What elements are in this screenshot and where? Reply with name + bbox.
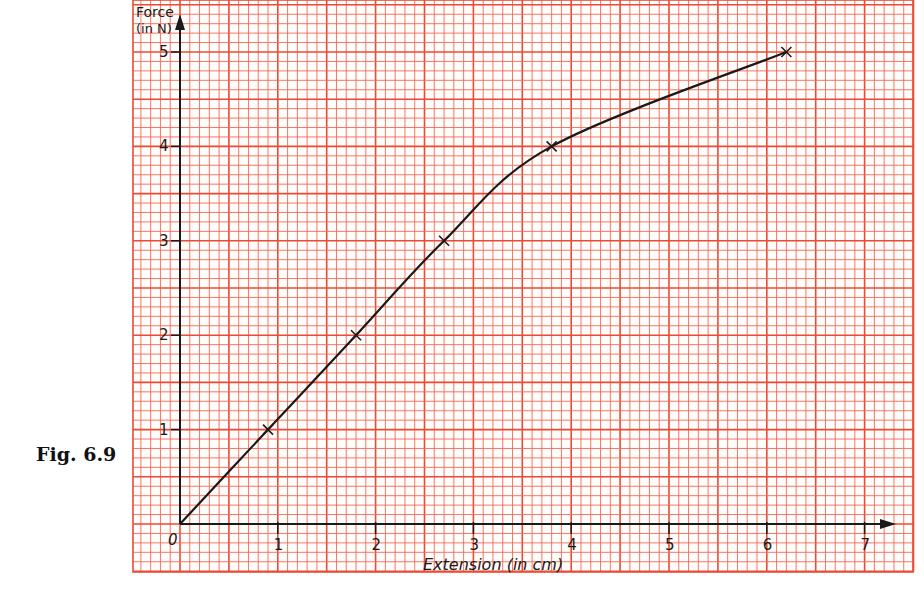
y-axis-label-line2: (in N) — [136, 21, 172, 36]
y-axis-label-line1: Force — [136, 4, 174, 20]
x-tick-label: 3 — [469, 536, 479, 554]
y-tick-label: 1 — [159, 421, 169, 439]
x-tick-label: 2 — [372, 536, 382, 554]
x-tick-label: 1 — [274, 536, 284, 554]
y-tick-label: 3 — [159, 232, 169, 250]
x-axis-label: Extension (in cm) — [423, 555, 563, 574]
y-tick-label: 5 — [159, 43, 169, 61]
origin-label: 0 — [168, 531, 178, 549]
y-tick-label: 4 — [159, 137, 169, 155]
x-tick-label: 5 — [665, 536, 675, 554]
x-tick-label: 4 — [567, 536, 577, 554]
graph-paper-chart: 1234567 12345 0 Force (in N) Extension (… — [0, 0, 924, 591]
x-tick-label: 7 — [861, 536, 871, 554]
x-tick-label: 6 — [763, 536, 773, 554]
y-tick-label: 2 — [159, 326, 169, 344]
